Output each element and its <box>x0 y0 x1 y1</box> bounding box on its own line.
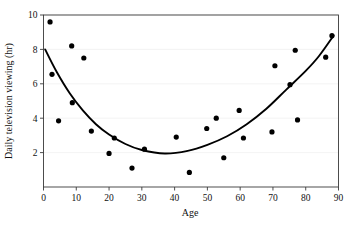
plot-frame <box>44 15 339 187</box>
data-point <box>187 170 192 175</box>
quadratic-fit-curve <box>45 36 333 154</box>
x-axis-ticks: 0102030405060708090 <box>41 187 343 203</box>
data-point <box>142 147 147 152</box>
y-axis-title: Daily television viewing (hr) <box>3 43 15 159</box>
y-tick-label: 4 <box>33 114 38 124</box>
data-point <box>70 100 75 105</box>
data-point <box>129 165 134 170</box>
gridlines-group <box>44 15 339 153</box>
scatter-chart: 246810 0102030405060708090 Age Daily tel… <box>0 0 353 234</box>
data-point <box>323 55 328 60</box>
data-point <box>221 155 226 160</box>
data-point <box>69 43 74 48</box>
x-tick-label: 30 <box>137 193 147 203</box>
data-point <box>272 63 277 68</box>
x-tick-label: 90 <box>334 193 344 203</box>
data-point <box>287 82 292 87</box>
x-tick-label: 10 <box>72 193 82 203</box>
figure-container: 246810 0102030405060708090 Age Daily tel… <box>0 0 353 234</box>
data-point <box>174 135 179 140</box>
data-point <box>106 151 111 156</box>
y-tick-label: 10 <box>28 10 38 20</box>
x-tick-label: 20 <box>104 193 114 203</box>
data-point <box>241 135 246 140</box>
fit-curve-group <box>45 36 333 154</box>
data-points-group <box>47 19 334 175</box>
data-point <box>89 129 94 134</box>
x-tick-label: 0 <box>41 193 46 203</box>
data-point <box>81 55 86 60</box>
x-tick-label: 60 <box>235 193 245 203</box>
x-tick-label: 80 <box>301 193 311 203</box>
x-tick-label: 50 <box>203 193 213 203</box>
data-point <box>112 135 117 140</box>
caption-ghost <box>0 225 353 234</box>
data-point <box>49 72 54 77</box>
data-point <box>329 33 334 38</box>
y-axis-ticks: 246810 <box>28 10 44 158</box>
y-tick-label: 8 <box>33 45 38 55</box>
data-point <box>56 118 61 123</box>
data-point <box>295 117 300 122</box>
data-point <box>47 19 52 24</box>
x-axis-title: Age <box>182 207 199 218</box>
y-tick-label: 2 <box>33 148 38 158</box>
data-point <box>214 116 219 121</box>
data-point <box>204 126 209 131</box>
axis-frame <box>44 15 339 187</box>
data-point <box>269 129 274 134</box>
y-tick-label: 6 <box>33 79 38 89</box>
x-tick-label: 40 <box>170 193 180 203</box>
data-point <box>237 108 242 113</box>
data-point <box>293 48 298 53</box>
x-tick-label: 70 <box>268 193 278 203</box>
